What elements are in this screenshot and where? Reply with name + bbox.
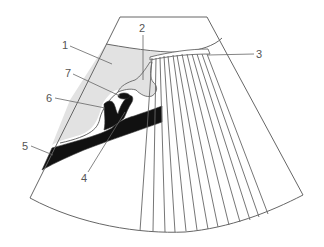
label-4: 4	[81, 172, 87, 184]
label-2: 2	[139, 22, 145, 34]
label-1: 1	[62, 39, 68, 51]
ultrasound-diagram: 1 2 3 4 5 6 7	[0, 0, 324, 247]
label-5: 5	[22, 140, 28, 152]
thin-band-3	[150, 49, 210, 60]
label-7: 7	[65, 67, 71, 79]
label-3: 3	[256, 48, 262, 60]
fan-lines	[140, 54, 268, 232]
label-6: 6	[46, 92, 52, 104]
